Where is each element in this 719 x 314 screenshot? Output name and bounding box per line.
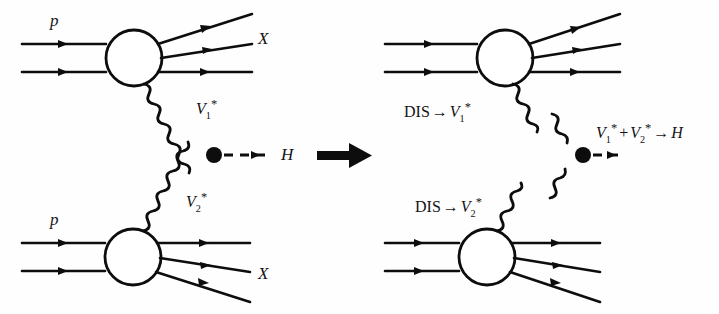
left-higgs-label: H (281, 146, 293, 163)
left-higgs-group (206, 147, 272, 163)
right-top-outgoing-arrow-1 (570, 26, 581, 34)
right-top-dis-base: V (450, 103, 460, 120)
left-bottom-incoming-arrow-2 (58, 267, 68, 275)
right-higgs-dash-arrow (607, 151, 616, 159)
left-higgs-vertex-dot (206, 147, 222, 163)
left-bottom-outgoing-arrow-3 (198, 278, 209, 286)
right-v2-wavy-tail (550, 169, 565, 198)
right-v1-wavy-tail (552, 114, 567, 143)
fusion-plus: + (617, 124, 630, 141)
left-v1-base: V (196, 100, 206, 117)
left-v2-base: V (186, 193, 196, 210)
left-bottom-outgoing-arrow-1 (199, 239, 209, 247)
left-v2-star: * (201, 190, 207, 204)
left-bottom-incoming-proton-label: p (50, 211, 59, 228)
left-v2-sub: 2 (196, 203, 201, 214)
right-higgs-vertex-dot (575, 147, 591, 163)
right-top-dis-star: * (465, 100, 471, 114)
fusion-v1-sub: 1 (606, 134, 611, 145)
right-bottom-incoming-arrow-1 (414, 239, 424, 247)
right-top-dis-annotation: DIS→V1* (404, 101, 471, 124)
right-bottom-dis-annotation: DIS→V2* (415, 196, 482, 219)
left-v2-wavy-boson (143, 142, 189, 231)
right-bottom-dis-arrow: → (441, 198, 461, 215)
right-v1-wavy-boson (513, 84, 538, 132)
feynman-figure: p X V1* H V2* p X DIS→V1* V1*+V2*→H DIS→… (0, 0, 719, 314)
right-top-dis-sub: 1 (460, 113, 465, 124)
right-bottom-dis-base: V (461, 198, 471, 215)
right-bottom-outgoing-arrow-3 (550, 278, 561, 286)
left-top-incoming-proton-label: p (50, 12, 59, 29)
left-v1-star: * (211, 97, 217, 111)
right-bottom-outgoing-arrow-1 (551, 239, 561, 247)
left-top-outgoing-arrow-3 (200, 68, 210, 76)
fusion-v1-base: V (596, 124, 606, 141)
left-v1-wavy-boson (144, 84, 190, 173)
transition-arrow-head (349, 143, 372, 168)
left-bottom-incoming-arrow-1 (58, 239, 68, 247)
right-bottom-outgoing-line-3 (510, 272, 600, 302)
left-bottom-proton-blob (105, 229, 161, 285)
left-top-incoming-arrow-2 (58, 68, 68, 76)
right-bottom-outgoing-arrow-2 (552, 262, 563, 269)
transition-arrow (317, 143, 372, 168)
left-bottom-outgoing-line-3 (156, 272, 250, 302)
fusion-result: H (671, 124, 683, 141)
right-top-proton-blob (477, 30, 533, 86)
diagram-canvas (0, 0, 719, 314)
right-fusion-annotation: V1*+V2*→H (596, 122, 683, 145)
left-bottom-remnant-label: X (258, 265, 268, 282)
fusion-v2-sub: 2 (640, 134, 645, 145)
right-top-incoming-arrow-2 (424, 68, 434, 76)
right-bottom-incoming-arrow-2 (414, 267, 424, 275)
right-top-outgoing-arrow-3 (570, 68, 580, 76)
left-v1-sub: 1 (206, 110, 211, 121)
right-bottom-proton-blob (459, 229, 515, 285)
right-bottom-dis-sub: 2 (471, 208, 476, 219)
right-v2-wavy-boson (497, 183, 522, 231)
left-top-remnant-label: X (258, 30, 268, 47)
right-bottom-dis-prefix: DIS (415, 198, 441, 215)
right-top-dis-prefix: DIS (404, 103, 430, 120)
left-v1-boson-label: V1* (196, 98, 217, 121)
left-top-proton-blob (106, 30, 162, 86)
left-bottom-outgoing-arrow-2 (200, 262, 211, 269)
transition-arrow-shaft (317, 151, 353, 160)
fusion-v2-base: V (630, 124, 640, 141)
right-bottom-dis-star: * (476, 195, 482, 209)
left-top-outgoing-arrow-1 (200, 25, 211, 33)
left-higgs-dash-arrow (251, 151, 260, 159)
right-top-dis-arrow: → (430, 103, 450, 120)
left-top-incoming-arrow-1 (58, 40, 68, 48)
fusion-arrow: → (651, 124, 671, 141)
left-v2-boson-label: V2* (186, 191, 207, 214)
right-top-incoming-arrow-1 (424, 40, 434, 48)
